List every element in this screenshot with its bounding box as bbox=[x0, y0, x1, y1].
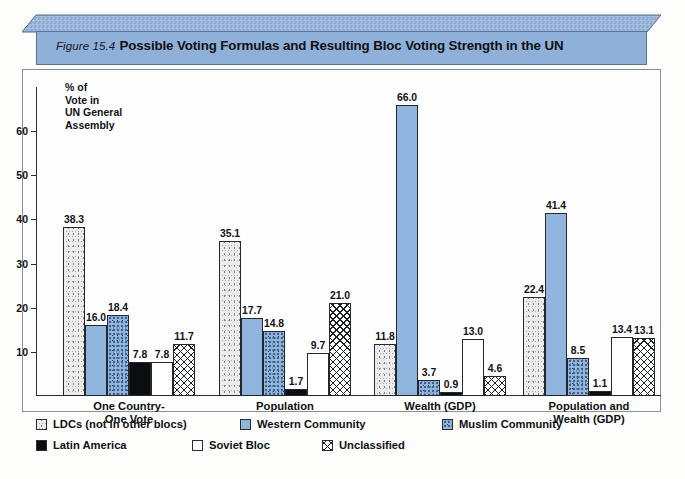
legend-row-0: LDCs (not in other blocs)Western Communi… bbox=[22, 418, 662, 439]
bar-2-0 bbox=[374, 344, 396, 396]
bar-group-3: 22.441.48.51.113.413.1 bbox=[523, 87, 655, 396]
bar-group-1: 35.117.714.81.79.721.0 bbox=[219, 87, 351, 396]
solid-blue-swatch bbox=[240, 419, 251, 430]
figure-banner: Figure 15.4 Possible Voting Formulas and… bbox=[22, 14, 661, 66]
bar-value-1-1: 17.7 bbox=[233, 305, 271, 316]
y-tick-label-30: 30 bbox=[6, 258, 28, 270]
bar-3-5 bbox=[633, 338, 655, 396]
legend-label: Unclassified bbox=[339, 439, 405, 451]
x-label-3-line-0: Population and bbox=[483, 400, 685, 413]
legend-row-1: Latin AmericaSoviet BlocUnclassified bbox=[22, 439, 662, 460]
bar-value-2-1: 66.0 bbox=[388, 92, 426, 103]
bar-3-4 bbox=[611, 337, 633, 396]
legend-item-stipple-gray[interactable]: LDCs (not in other blocs) bbox=[36, 418, 187, 430]
bar-value-0-5: 11.7 bbox=[165, 331, 203, 342]
bar-value-3-1: 41.4 bbox=[537, 200, 575, 211]
bar-group-2: 11.866.03.70.913.04.6 bbox=[374, 87, 506, 396]
legend-label: Soviet Bloc bbox=[209, 439, 270, 451]
bar-0-3 bbox=[129, 362, 151, 396]
bar-3-3 bbox=[589, 391, 611, 396]
bar-1-3 bbox=[285, 389, 307, 397]
bar-2-3 bbox=[440, 392, 462, 396]
figure-page: Figure 15.4 Possible Voting Formulas and… bbox=[0, 0, 685, 479]
bar-group-0: 38.316.018.47.87.811.7 bbox=[63, 87, 195, 396]
y-tick-label-10: 10 bbox=[6, 346, 28, 358]
bar-0-4 bbox=[151, 362, 173, 396]
legend-item-solid-blue[interactable]: Western Community bbox=[240, 418, 366, 430]
legend-label: Muslim Community bbox=[459, 418, 562, 430]
bar-1-0 bbox=[219, 241, 241, 396]
bar-1-5 bbox=[329, 303, 351, 396]
bar-2-5 bbox=[484, 376, 506, 396]
legend-item-solid-black[interactable]: Latin America bbox=[36, 439, 127, 451]
bar-0-1 bbox=[85, 325, 107, 396]
legend-item-stipple-blue[interactable]: Muslim Community bbox=[442, 418, 562, 430]
legend-label: Latin America bbox=[53, 439, 127, 451]
bar-3-0 bbox=[523, 297, 545, 396]
bar-value-3-5: 13.1 bbox=[625, 325, 663, 336]
bar-value-0-2: 18.4 bbox=[99, 302, 137, 313]
chart-frame: % ofVote inUN GeneralAssembly 1020304050… bbox=[22, 69, 661, 412]
bar-value-3-2: 8.5 bbox=[559, 345, 597, 356]
stipple-blue-swatch bbox=[442, 419, 453, 430]
banner-slab-top bbox=[22, 14, 661, 32]
legend-item-white[interactable]: Soviet Bloc bbox=[192, 439, 270, 451]
legend-label: Western Community bbox=[257, 418, 366, 430]
bar-value-0-0: 38.3 bbox=[55, 214, 93, 225]
bar-1-4 bbox=[307, 353, 329, 396]
bar-value-2-2: 3.7 bbox=[410, 367, 448, 378]
legend-item-crosshatch[interactable]: Unclassified bbox=[322, 439, 405, 451]
bar-1-1 bbox=[241, 318, 263, 396]
bar-0-5 bbox=[173, 344, 195, 396]
legend-label: LDCs (not in other blocs) bbox=[53, 418, 187, 430]
bar-value-1-0: 35.1 bbox=[211, 228, 249, 239]
white-swatch bbox=[192, 440, 203, 451]
plot-area: 38.316.018.47.87.811.735.117.714.81.79.7… bbox=[36, 87, 661, 396]
solid-black-swatch bbox=[36, 440, 47, 451]
crosshatch-swatch bbox=[322, 440, 333, 451]
bar-3-1 bbox=[545, 213, 567, 396]
bar-value-2-5: 4.6 bbox=[476, 363, 514, 374]
stipple-gray-swatch bbox=[36, 419, 47, 430]
chart-legend: LDCs (not in other blocs)Western Communi… bbox=[22, 418, 662, 460]
bar-value-1-5: 21.0 bbox=[321, 290, 359, 301]
y-tick-label-50: 50 bbox=[6, 169, 28, 181]
figure-title: Possible Voting Formulas and Resulting B… bbox=[36, 38, 647, 53]
bar-value-1-2: 14.8 bbox=[255, 318, 293, 329]
y-tick-label-60: 60 bbox=[6, 125, 28, 137]
bar-value-2-4: 13.0 bbox=[454, 326, 492, 337]
y-tick-label-40: 40 bbox=[6, 213, 28, 225]
bar-2-1 bbox=[396, 105, 418, 396]
y-tick-label-20: 20 bbox=[6, 302, 28, 314]
